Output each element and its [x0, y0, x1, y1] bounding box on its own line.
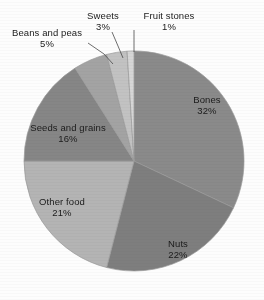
slice-label-beans-and-peas: Beans and peas 5% — [6, 27, 88, 49]
slice-label-fruit-stones-value: 1% — [130, 21, 208, 32]
pie-slices-group — [24, 51, 244, 271]
slice-label-sweets: Sweets 3% — [80, 10, 126, 32]
slice-label-seeds-and-grains-name: Seeds and grains — [16, 122, 120, 133]
slice-label-nuts: Nuts 22% — [152, 238, 204, 260]
slice-label-fruit-stones: Fruit stones 1% — [130, 10, 208, 32]
slice-label-fruit-stones-name: Fruit stones — [130, 10, 208, 21]
slice-label-sweets-name: Sweets — [80, 10, 126, 21]
slice-label-bones: Bones 32% — [176, 94, 238, 116]
slice-label-beans-and-peas-value: 5% — [6, 38, 88, 49]
slice-label-nuts-value: 22% — [152, 249, 204, 260]
slice-label-other-food: Other food 21% — [24, 196, 100, 218]
slice-label-seeds-and-grains: Seeds and grains 16% — [16, 122, 120, 144]
slice-label-other-food-name: Other food — [24, 196, 100, 207]
slice-label-bones-name: Bones — [176, 94, 238, 105]
slice-label-bones-value: 32% — [176, 105, 238, 116]
slice-label-sweets-value: 3% — [80, 21, 126, 32]
slice-label-nuts-name: Nuts — [152, 238, 204, 249]
slice-label-seeds-and-grains-value: 16% — [16, 133, 120, 144]
pie-chart: Bones 32% Nuts 22% Other food 21% Seeds … — [0, 0, 264, 300]
slice-label-other-food-value: 21% — [24, 207, 100, 218]
slice-label-beans-and-peas-name: Beans and peas — [6, 27, 88, 38]
